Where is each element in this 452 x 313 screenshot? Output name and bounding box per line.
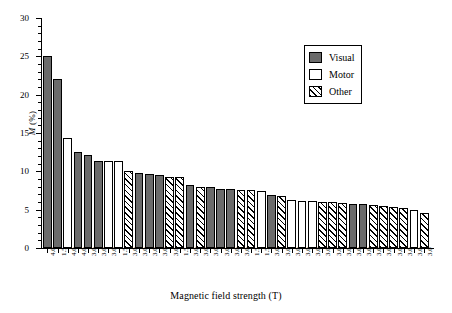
- y-axis-minor-tick: [38, 179, 41, 180]
- y-axis-line: [41, 18, 42, 249]
- x-axis-tick-label: 3.0: [285, 247, 292, 256]
- x-axis-tick: [251, 249, 252, 253]
- y-axis-minor-tick: [38, 102, 41, 103]
- x-axis-tick-label: 3.0: [193, 247, 200, 256]
- x-axis-tick-label: 3.0: [274, 247, 281, 256]
- x-axis-tick-label: 3.0: [111, 247, 118, 256]
- x-axis-tick: [363, 249, 364, 253]
- bar-other: [318, 202, 327, 248]
- x-axis-tick: [170, 249, 171, 253]
- y-axis-minor-tick: [38, 194, 41, 195]
- y-axis-tick-label: 10: [20, 167, 29, 176]
- bar-visual: [349, 204, 358, 248]
- chart-legend: VisualMotorOther: [304, 45, 362, 104]
- x-axis-tick-label: 3.0: [173, 247, 180, 256]
- x-axis-tick-label: 3.0: [162, 247, 169, 256]
- x-axis-tick-label: 3.0: [305, 247, 312, 256]
- bar-other: [124, 171, 133, 248]
- x-axis-tick-label: 3.0: [101, 247, 108, 256]
- legend-item-visual: Visual: [309, 49, 355, 66]
- bar-visual: [43, 56, 52, 248]
- bar-visual: [135, 173, 144, 248]
- x-axis-tick: [404, 249, 405, 253]
- y-axis-minor-tick: [38, 79, 41, 80]
- y-axis-minor-tick: [38, 148, 41, 149]
- x-axis-tick: [119, 249, 120, 253]
- y-axis-minor-tick: [38, 164, 41, 165]
- bar-other: [237, 190, 246, 248]
- bar-visual: [145, 174, 154, 248]
- y-axis-minor-tick: [38, 187, 41, 188]
- bar-other: [420, 213, 429, 248]
- bar-visual: [84, 155, 93, 248]
- x-axis-tick: [231, 249, 232, 253]
- x-axis-tick: [333, 249, 334, 253]
- x-axis-tick: [394, 249, 395, 253]
- y-axis-minor-tick: [38, 217, 41, 218]
- x-axis-tick: [190, 249, 191, 253]
- legend-item-other: Other: [309, 83, 355, 100]
- x-axis-tick-label: 3.0: [417, 247, 424, 256]
- x-axis-tick: [88, 249, 89, 253]
- bar-other: [399, 208, 408, 248]
- legend-item-motor: Motor: [309, 66, 355, 83]
- bar-motor: [104, 161, 113, 248]
- y-axis-major-tick: 25: [36, 56, 41, 57]
- y-axis-minor-tick: [38, 87, 41, 88]
- x-axis-tick: [78, 249, 79, 253]
- y-axis-minor-tick: [38, 240, 41, 241]
- bar-other: [165, 177, 174, 248]
- x-axis-tick-label: 1.5: [183, 247, 190, 256]
- bar-visual: [94, 161, 103, 248]
- x-axis-tick-label: 4.0: [81, 247, 88, 256]
- bar-visual: [53, 79, 62, 248]
- bar-other: [175, 177, 184, 248]
- x-axis-tick-label: 3.0: [325, 247, 332, 256]
- bar-other: [277, 196, 286, 248]
- y-axis-minor-tick: [38, 26, 41, 27]
- x-axis-tick-label: 3.0: [366, 247, 373, 256]
- y-axis-tick-label: 30: [20, 14, 29, 23]
- bar-other: [379, 206, 388, 248]
- bar-motor: [298, 201, 307, 248]
- bar-motor: [287, 200, 296, 248]
- y-axis-title-unit: (%): [27, 111, 37, 125]
- bar-motor: [114, 161, 123, 248]
- x-axis-tick-label: 3.0: [356, 247, 363, 256]
- bar-chart-figure: M (%) Magnetic field strength (T) 051015…: [0, 0, 452, 313]
- x-axis-tick-label: 1.5: [254, 247, 261, 256]
- x-axis-tick: [312, 249, 313, 253]
- x-axis-tick-label: 1.5: [264, 247, 271, 256]
- y-axis-tick-label: 15: [20, 129, 29, 138]
- x-axis-tick: [343, 249, 344, 253]
- y-axis-minor-tick: [38, 141, 41, 142]
- y-axis-major-tick: 15: [36, 133, 41, 134]
- x-axis-tick: [282, 249, 283, 253]
- bar-visual: [155, 175, 164, 248]
- x-axis-tick-label: 3.0: [132, 247, 139, 256]
- y-axis-major-tick: 0: [36, 248, 41, 249]
- x-axis-tick-label: 3.0: [386, 247, 393, 256]
- x-axis-tick: [68, 249, 69, 253]
- y-axis-minor-tick: [38, 72, 41, 73]
- x-axis-tick-label: 3.0: [91, 247, 98, 256]
- bar-visual: [267, 195, 276, 248]
- y-axis-minor-tick: [38, 233, 41, 234]
- x-axis-tick-label: 3.0: [346, 247, 353, 256]
- bar-motor: [63, 138, 72, 248]
- x-axis-tick-label: 3.0: [234, 247, 241, 256]
- y-axis-minor-tick: [38, 225, 41, 226]
- x-axis-tick-label: 3.0: [213, 247, 220, 256]
- legend-label: Motor: [329, 70, 354, 80]
- bar-other: [338, 203, 347, 248]
- y-axis-minor-tick: [38, 125, 41, 126]
- bar-motor: [308, 201, 317, 248]
- bar-motor: [410, 210, 419, 248]
- plot-area: 051015202530 4.01.54.04.03.03.03.01.53.0…: [41, 18, 434, 248]
- x-axis-tick-label: 3.0: [407, 247, 414, 256]
- bar-other: [196, 187, 205, 248]
- x-axis-tick: [353, 249, 354, 253]
- y-axis-minor-tick: [38, 156, 41, 157]
- y-axis-title: M (%): [27, 93, 37, 153]
- x-axis-tick: [200, 249, 201, 253]
